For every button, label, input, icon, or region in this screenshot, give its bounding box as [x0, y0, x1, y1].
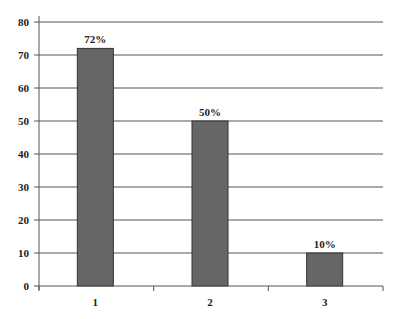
y-tick-label: 70	[18, 49, 30, 61]
bar-3	[307, 253, 343, 286]
y-tick-label: 60	[18, 82, 30, 94]
y-tick-label: 20	[18, 214, 30, 226]
y-tick-label: 80	[18, 16, 30, 28]
data-label: 10%	[314, 238, 336, 250]
y-tick-label: 50	[18, 115, 30, 127]
x-tick-label: 1	[93, 296, 99, 308]
x-tick-label: 3	[322, 296, 328, 308]
x-tick-label: 2	[207, 296, 213, 308]
bar-1	[77, 48, 113, 286]
bar-chart: 0102030405060708072%150%210%3	[0, 0, 395, 319]
y-tick-label: 30	[18, 181, 30, 193]
y-tick-label: 40	[18, 148, 30, 160]
y-tick-label: 0	[24, 280, 30, 292]
data-label: 72%	[84, 33, 106, 45]
labels: 0102030405060708072%150%210%3	[18, 16, 336, 308]
bar-2	[192, 121, 228, 286]
bars	[77, 48, 342, 286]
y-tick-label: 10	[18, 247, 30, 259]
data-label: 50%	[199, 106, 221, 118]
